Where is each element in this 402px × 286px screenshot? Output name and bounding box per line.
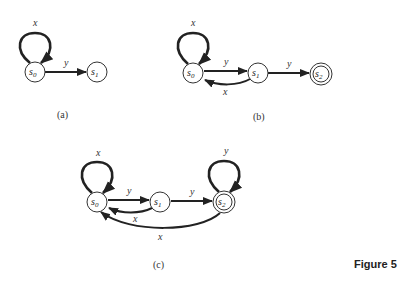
state-b-s1: s1 (248, 63, 268, 83)
diagram-c: x y x y y x s0 s1 s2 (c) (82, 145, 239, 271)
edge-label-c-x2: x (157, 231, 163, 242)
edge-b-s0-s0-loop (178, 33, 208, 64)
edge-label-c-x1: x (132, 213, 138, 224)
caption-a: (a) (57, 109, 68, 121)
state-b-s0: s0 (183, 63, 203, 83)
edge-b-s1-s0 (205, 79, 250, 84)
state-c-s2-accepting: s2 (213, 191, 235, 213)
edge-c-s1-s0 (109, 208, 152, 213)
caption-c: (c) (153, 259, 164, 271)
state-c-s1: s1 (150, 192, 170, 212)
figure-label: Figure 5 (354, 258, 397, 270)
edge-label-c-loop-x: x (95, 147, 101, 158)
edge-label-b-x: x (222, 86, 228, 97)
diagram-b: x y x y s0 s1 s2 (b) (178, 17, 332, 123)
edge-label-b-y1: y (223, 56, 229, 67)
state-a-s1: s1 (87, 62, 107, 82)
edge-label-a-y: y (63, 57, 69, 68)
edge-label-a-loop: x (32, 17, 38, 28)
diagram-a: x y s0 s1 (a) (20, 17, 107, 121)
edge-c-s2-s2-loop (209, 161, 239, 192)
edge-c-s2-s0 (101, 212, 220, 228)
caption-b: (b) (253, 111, 265, 123)
state-b-s2-accepting: s2 (310, 63, 332, 85)
edge-a-s0-s0-loop (20, 33, 50, 63)
edge-label-b-y2: y (286, 58, 292, 69)
edge-label-c-y2: y (189, 186, 195, 197)
figure-canvas: x y s0 s1 (a) x y x y s0 s1 (0, 0, 402, 286)
edge-label-b-loop: x (190, 17, 196, 28)
state-c-s0: s0 (87, 192, 107, 212)
edge-label-c-loop-y: y (223, 145, 229, 156)
edge-label-c-y1: y (126, 185, 132, 196)
edge-c-s0-s0-loop (82, 162, 112, 193)
state-a-s0: s0 (25, 62, 45, 82)
